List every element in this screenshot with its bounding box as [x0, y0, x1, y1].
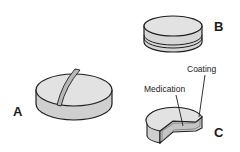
tablet-a-scored — [36, 69, 112, 120]
label-a: A — [13, 104, 22, 119]
label-c: C — [214, 125, 223, 140]
tablet-b-layered — [144, 16, 202, 52]
label-b: B — [214, 19, 223, 34]
coating-label: Coating — [187, 64, 216, 74]
tablet-diagram — [0, 0, 240, 152]
medication-label: Medication — [144, 84, 185, 94]
coating-leader-line — [199, 75, 205, 117]
